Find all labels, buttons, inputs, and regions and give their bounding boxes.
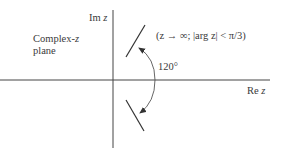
plane-title: Complex-z <box>33 33 79 45</box>
re-axis-label: Re z <box>247 85 265 97</box>
plane-title-line2: plane <box>33 45 56 57</box>
angle-arc-upper <box>139 48 155 80</box>
complex-plane-diagram <box>0 0 284 152</box>
upper-ray-segment <box>126 25 145 57</box>
plane-title-line1: Complex- <box>33 33 75 44</box>
lower-ray-segment <box>126 100 144 131</box>
im-axis-label: Im z <box>89 12 107 24</box>
angle-arc-lower <box>140 80 155 113</box>
condition-label: (z → ∞; |arg z| < π/3) <box>156 30 246 42</box>
plane-title-var: z <box>75 33 79 44</box>
angle-label: 120° <box>158 61 178 73</box>
